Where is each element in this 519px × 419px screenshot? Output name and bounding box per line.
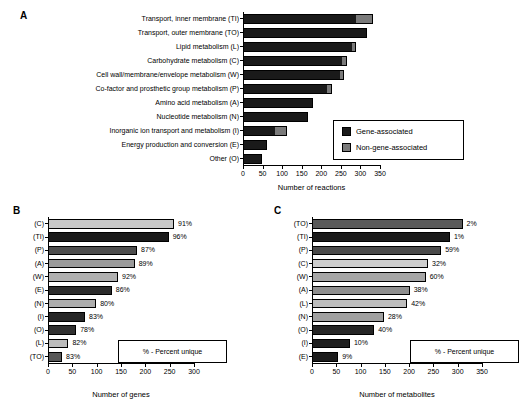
panel-b-percent-label: 82% — [72, 339, 86, 346]
panel-c-category-label: (L) — [266, 300, 308, 307]
panel-b-category-label: (I) — [2, 313, 44, 320]
panel-b-y-tick — [45, 250, 48, 251]
panel-b-y-tick — [45, 330, 48, 331]
panel-a-bar-non-gene-associated — [340, 70, 345, 80]
panel-c-percent-label: 42% — [411, 300, 425, 307]
panel-c-tick — [433, 364, 434, 367]
panel-b-category-label: (P) — [2, 246, 44, 253]
panel-a-x-axis-title: Number of reactions — [243, 184, 380, 192]
panel-c-y-tick — [309, 343, 312, 344]
panel-c-bar — [312, 352, 338, 362]
panel-a-y-tick — [240, 18, 243, 19]
panel-c-category-label: (N) — [266, 313, 308, 320]
panel-c-bar — [312, 259, 428, 269]
panel-a-bar-gene-associated — [243, 84, 327, 94]
panel-b-category-label: (L) — [2, 339, 44, 346]
legend-label-gene-associated: Gene-associated — [356, 128, 413, 136]
panel-c-category-label: (I) — [266, 339, 308, 346]
panel-b-bar — [48, 286, 112, 296]
panel-c-y-tick — [309, 237, 312, 238]
panel-c-percent-label: 28% — [388, 313, 402, 320]
panel-c-y-tick — [309, 250, 312, 251]
panel-b-percent-label: 96% — [173, 233, 187, 240]
panel-b-note-text: % - Percent unique — [143, 348, 203, 356]
panel-c-percent-label: 59% — [445, 246, 459, 253]
panel-c-bar — [312, 272, 426, 282]
panel-a-bar-non-gene-associated — [342, 56, 347, 66]
panel-b-percent-label: 87% — [141, 246, 155, 253]
panel-c-y-tick — [309, 356, 312, 357]
panel-c-category-label: (TI) — [266, 233, 308, 240]
panel-b-percent-label: 83% — [89, 313, 103, 320]
panel-b-bar — [48, 299, 96, 309]
panel-c-y-tick — [309, 276, 312, 277]
panel-a-bar-gene-associated — [243, 126, 275, 136]
panel-a-category-label: Cell wall/membrane/envelope metabolism (… — [55, 71, 239, 78]
legend-label-non-gene-associated: Non-gene-associated — [356, 144, 427, 152]
panel-c-y-tick — [309, 316, 312, 317]
panel-b-y-tick — [45, 303, 48, 304]
panel-c-bar — [312, 325, 374, 335]
panel-c-tick-label: 350 — [467, 368, 497, 375]
panel-a-category-label: Lipid metabolism (L) — [55, 43, 239, 50]
panel-b-note-box: % - Percent unique — [118, 340, 227, 363]
panel-b-percent-label: 92% — [122, 273, 136, 280]
panel-a-tick — [321, 166, 322, 169]
panel-c-tick — [385, 364, 386, 367]
panel-b-category-label: (TO) — [2, 353, 44, 360]
panel-b-y-tick — [45, 356, 48, 357]
panel-c-y-tick — [309, 263, 312, 264]
panel-c-tick — [312, 364, 313, 367]
panel-b-percent-label: 91% — [178, 220, 192, 227]
panel-b-bar — [48, 246, 137, 256]
panel-c-percent-label: 40% — [378, 326, 392, 333]
panel-b-tick — [97, 364, 98, 367]
panel-a-bar-gene-associated — [243, 70, 340, 80]
panel-b-tick — [72, 364, 73, 367]
panel-b-percent-label: 86% — [116, 286, 130, 293]
panel-b-bar — [48, 232, 169, 242]
panel-a-y-axis — [243, 12, 244, 165]
panel-c-percent-label: 38% — [414, 286, 428, 293]
panel-b-tick — [194, 364, 195, 367]
panel-b-bar — [48, 219, 174, 229]
panel-b-category-label: (W) — [2, 273, 44, 280]
panel-a-bar-gene-associated — [243, 154, 262, 164]
panel-b-tick-label: 300 — [179, 368, 209, 375]
panel-a-category-label: Energy production and conversion (E) — [55, 141, 239, 148]
panel-a-bar-gene-associated — [243, 98, 313, 108]
panel-a-category-label: Nucleotide metabolism (N) — [55, 113, 239, 120]
panel-b-bar — [48, 312, 85, 322]
panel-a-category-label: Carbohydrate metabolism (C) — [55, 57, 239, 64]
panel-a-y-tick — [240, 88, 243, 89]
panel-a-y-tick — [240, 116, 243, 117]
non-gene-associated-swatch-icon — [342, 143, 351, 152]
gene-associated-swatch-icon — [342, 127, 351, 136]
panel-c-percent-label: 32% — [432, 260, 446, 267]
panel-b-category-label: (A) — [2, 260, 44, 267]
panel-c-y-tick — [309, 290, 312, 291]
panel-a-category-label: Inorganic ion transport and metabolism (… — [55, 127, 239, 134]
panel-a-bar-non-gene-associated — [327, 84, 332, 94]
panel-c-bar — [312, 286, 410, 296]
panel-a-chart: Transport, inner membrane (TI)Transport,… — [0, 0, 499, 195]
panel-b-bar — [48, 339, 68, 349]
panel-c-x-axis-title: Number of metabolites — [312, 391, 482, 399]
panel-a-bar-gene-associated — [243, 14, 356, 24]
panel-a-y-tick — [240, 60, 243, 61]
panel-b-y-tick — [45, 223, 48, 224]
panel-c-percent-label: 60% — [430, 273, 444, 280]
panel-a-bar-non-gene-associated — [356, 14, 373, 24]
panel-b-bar — [48, 325, 76, 335]
panel-a-y-tick — [240, 74, 243, 75]
panel-a-bar-gene-associated — [243, 42, 352, 52]
panel-b-percent-label: 83% — [66, 353, 80, 360]
panel-b-bar — [48, 352, 62, 362]
panel-c-y-tick — [309, 223, 312, 224]
panel-a-y-tick — [240, 158, 243, 159]
panel-b-chart: (C)(TI)(P)(A)(W)(E)(N)(I)(O)(L)(TO) 91%9… — [0, 195, 250, 419]
panel-a-category-label: Transport, outer membrane (TO) — [55, 29, 239, 36]
panel-a-bar-gene-associated — [243, 28, 366, 38]
panel-c-percent-label: 9% — [342, 353, 352, 360]
panel-c-tick — [409, 364, 410, 367]
